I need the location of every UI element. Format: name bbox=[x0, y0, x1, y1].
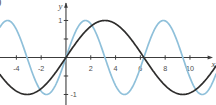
y-tick-label-1: 1 bbox=[58, 16, 62, 25]
x-tick-label-2: 2 bbox=[89, 64, 93, 73]
x-tick-label-4: 4 bbox=[114, 64, 118, 73]
y-tick-label--1: -1 bbox=[70, 90, 76, 99]
sine-curves-figure: ) -4-22468101-1yx bbox=[0, 0, 216, 105]
x-tick-label-8: 8 bbox=[163, 64, 167, 73]
x-tick-label--2: -2 bbox=[38, 64, 44, 73]
corner-paren-mark: ) bbox=[0, 0, 1, 7]
sine-curves-chart: -4-22468101-1yx bbox=[0, 0, 216, 105]
x-tick-label--4: -4 bbox=[13, 64, 19, 73]
y-axis-arrow bbox=[64, 3, 68, 8]
y-axis-label: y bbox=[58, 1, 63, 11]
